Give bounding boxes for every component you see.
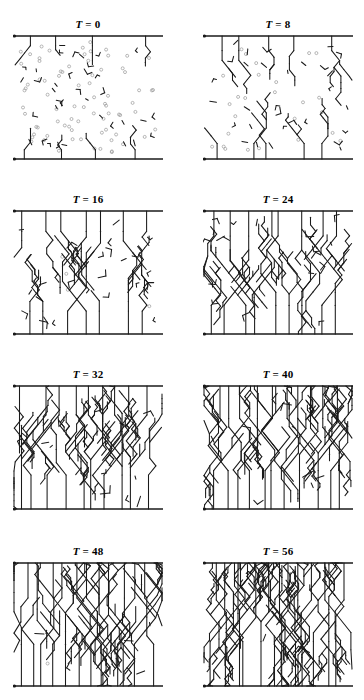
dendrite-segment (240, 418, 250, 430)
dendrite-segment (69, 74, 70, 78)
rail-end-dot (203, 332, 206, 335)
dendrite-segment (75, 52, 79, 53)
dendrite-segment (137, 496, 140, 506)
nucleus-marker (107, 94, 110, 97)
dendrite-segment (66, 426, 69, 430)
dendrite-segment (209, 423, 218, 434)
dendrite-segment (312, 263, 320, 272)
dendrite-segment (321, 241, 327, 249)
dendrite-segment (250, 124, 252, 128)
dendrite-segment (326, 68, 329, 70)
nucleus-marker (19, 50, 22, 53)
dendrite-segment (66, 422, 69, 426)
dendrite-segment (137, 671, 145, 674)
dendrite-segment (318, 444, 325, 453)
dendrite-segment (269, 51, 274, 58)
dendrite-segment (121, 259, 126, 261)
dendrite-segment (257, 120, 264, 129)
dendrite-segment (33, 116, 38, 117)
dendrite-segment (68, 282, 69, 288)
dendrite-segment (334, 572, 341, 580)
dendrite-segment (289, 70, 294, 77)
dendrite-segment (261, 222, 264, 226)
dendrite-segment (76, 299, 86, 311)
dendrite-segment (56, 463, 66, 475)
dendrite-segment (205, 239, 210, 241)
dendrite-segment (250, 428, 251, 438)
dendrite-segment (327, 647, 335, 657)
dendrite-segment (134, 140, 136, 146)
dendrite-segment (85, 566, 91, 573)
dendrite-segment (344, 70, 350, 77)
nucleus-marker (105, 48, 108, 51)
dendrite-segment (288, 263, 294, 271)
nucleus-marker (107, 54, 110, 57)
dendrite-segment (80, 89, 81, 94)
dendrite-segment (46, 387, 52, 395)
dendrite-segment (33, 597, 39, 605)
dendrite-segment (233, 80, 238, 87)
dendrite-segment (77, 573, 85, 583)
dendrite-segment (152, 117, 155, 119)
dendrite-segment (56, 580, 63, 588)
dendrite-segment (141, 599, 147, 606)
dendrite-segment (213, 218, 218, 219)
dendrite-segment (91, 445, 103, 460)
dendrite-segment (343, 483, 346, 486)
nucleus-marker (68, 65, 71, 68)
dendrite-segment (243, 426, 251, 428)
dendrite-segment (331, 456, 343, 471)
panel-plot-t32 (13, 382, 163, 514)
dendrite-segment (131, 402, 136, 408)
dendrite-segment (111, 126, 114, 128)
dendrite-segment (66, 440, 71, 446)
dendrite-segment (212, 661, 215, 665)
dendrite-segment (348, 662, 350, 664)
dendrite-segment (156, 601, 162, 618)
panel-title-variable: T (263, 193, 270, 205)
dendrite-segment (253, 269, 259, 276)
dendrite-segment (311, 483, 313, 488)
dendrite-segment (292, 588, 295, 591)
dendrite-segment (272, 277, 277, 283)
dendrite-segment (334, 142, 339, 145)
dendrite-segment (229, 587, 233, 592)
dendrite-segment (205, 388, 210, 394)
nucleus-marker (99, 147, 102, 150)
dendrite-segment (292, 394, 297, 400)
dendrite-segment (272, 393, 277, 399)
dendrite-segment (97, 437, 102, 444)
dendrite-segment (135, 476, 136, 479)
dendrite-segment (303, 672, 310, 680)
dendrite-segment (72, 266, 74, 269)
dendrite-segment (234, 123, 235, 126)
dendrite-segment (212, 300, 213, 304)
panel-title-t8: T = 8 (203, 18, 353, 30)
dendrite-segment (310, 584, 315, 590)
dendrite-segment (135, 51, 137, 53)
dendrite-segment (297, 135, 304, 144)
dendrite-segment (147, 273, 148, 276)
figure-panel-grid: T = 0T = 8T = 16T = 24T = 32T = 40T = 48… (0, 0, 364, 700)
dendrite-segment (66, 653, 71, 659)
dendrite-segment (257, 101, 263, 108)
dendrite-segment (86, 138, 90, 143)
dendrite-segment (207, 669, 209, 672)
dendrite-segment (279, 258, 282, 262)
dendrite-segment (263, 634, 266, 641)
panel-plot-t24 (203, 207, 353, 339)
panel-title-value: = 8 (272, 18, 290, 30)
dendrite-segment (241, 564, 246, 570)
nucleus-marker (222, 74, 225, 77)
dendrite-segment (325, 600, 336, 614)
nucleus-marker (211, 145, 214, 148)
dendrite-segment (38, 590, 42, 596)
dendrite-segment (219, 427, 227, 438)
dendrite-segment (265, 99, 268, 102)
dendrite-segment (276, 114, 281, 116)
panel-title-value: = 40 (270, 368, 294, 380)
panel-plot-t8 (203, 32, 353, 164)
dendrite-segment (244, 62, 248, 66)
dendrite-segment (308, 323, 312, 328)
dendrite-segment (14, 633, 20, 640)
